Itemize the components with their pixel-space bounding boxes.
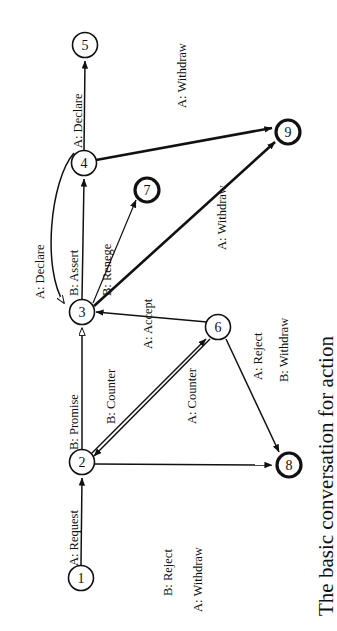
node-2-label: 2 bbox=[79, 455, 86, 470]
edge-label-a-declare-4-3: A: Declare bbox=[34, 245, 47, 299]
node-8[interactable]: 8 bbox=[277, 453, 301, 477]
nodes-layer: 1 2 3 4 5 6 7 bbox=[69, 33, 302, 591]
figure-caption: The basic conversation for action bbox=[314, 336, 337, 616]
edge-2-to-8 bbox=[95, 464, 273, 465]
node-2[interactable]: 2 bbox=[70, 450, 95, 475]
node-4[interactable]: 4 bbox=[72, 151, 97, 176]
edge-label-b-withdraw: B: Withdraw bbox=[278, 318, 291, 382]
edge-label-a-withdraw-bottom: A: Withdraw bbox=[192, 547, 205, 612]
node-1-label: 1 bbox=[78, 571, 85, 586]
edge-label-a-withdraw-3-9: A: Withdraw bbox=[216, 185, 229, 250]
node-9-label: 9 bbox=[285, 125, 292, 140]
node-6-label: 6 bbox=[215, 320, 222, 335]
node-9[interactable]: 9 bbox=[276, 120, 300, 144]
edge-3-to-4 bbox=[82, 179, 84, 300]
edge-label-a-declare-4-5: A: Declare bbox=[72, 94, 85, 148]
edge-label-a-withdraw-4-9: A: Withdraw bbox=[176, 43, 189, 108]
state-diagram: 1 2 3 4 5 6 7 bbox=[0, 0, 337, 631]
edge-label-a-accept: A: Accept bbox=[142, 299, 155, 349]
edge-label-a-counter: A: Counter bbox=[186, 368, 199, 424]
node-6[interactable]: 6 bbox=[206, 315, 231, 340]
edge-label-a-reject: A: Reject bbox=[252, 332, 265, 380]
edge-label-b-assert: B: Assert bbox=[68, 250, 81, 296]
edge-4-to-9 bbox=[96, 128, 272, 160]
edge-label-b-renege: B: Renege bbox=[101, 244, 114, 296]
edge-label-b-reject-bottom: B: Reject bbox=[162, 549, 175, 596]
edge-label-b-counter: B: Counter bbox=[105, 369, 118, 424]
figure-page: 1 2 3 4 5 6 7 bbox=[0, 0, 337, 631]
edge-3-to-9 bbox=[94, 142, 275, 306]
node-3-label: 3 bbox=[79, 305, 86, 320]
edge-1-to-2 bbox=[81, 478, 82, 566]
node-7-label: 7 bbox=[144, 183, 151, 198]
node-8-label: 8 bbox=[286, 458, 293, 473]
node-7[interactable]: 7 bbox=[135, 178, 159, 202]
node-3[interactable]: 3 bbox=[70, 300, 95, 325]
edge-label-a-request: A: Request bbox=[68, 510, 81, 566]
node-5-label: 5 bbox=[82, 38, 89, 53]
node-5[interactable]: 5 bbox=[73, 33, 98, 58]
edge-label-b-promise: B: Promise bbox=[68, 394, 81, 450]
node-4-label: 4 bbox=[81, 156, 88, 171]
node-1[interactable]: 1 bbox=[69, 566, 94, 591]
